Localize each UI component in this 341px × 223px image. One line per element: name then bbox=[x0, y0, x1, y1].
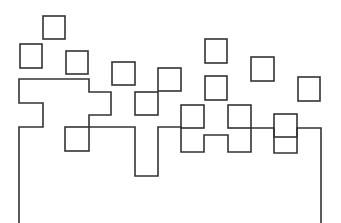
square-tile-5 bbox=[158, 68, 181, 91]
square-tile-1 bbox=[43, 16, 65, 39]
square-tile-9 bbox=[251, 57, 274, 81]
square-tile-12 bbox=[181, 105, 204, 128]
square-tile-2 bbox=[20, 44, 42, 68]
square-tile-4 bbox=[112, 62, 135, 85]
tile-diagram bbox=[0, 0, 341, 223]
square-tile-13 bbox=[228, 105, 251, 128]
square-tile-10 bbox=[205, 76, 227, 100]
square-tile-3 bbox=[66, 51, 88, 74]
square-tile-8 bbox=[205, 39, 227, 63]
square-tile-7 bbox=[65, 127, 89, 151]
square-tile-11 bbox=[298, 77, 320, 101]
square-tile-14 bbox=[274, 114, 297, 137]
square-tiles bbox=[20, 16, 320, 151]
square-tile-6 bbox=[135, 92, 158, 115]
